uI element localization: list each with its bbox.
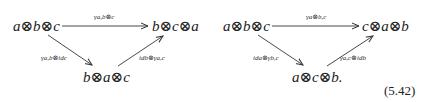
right-top-arrow-label: γa⊗b,c [306, 14, 326, 21]
equation-number: (5.42) [384, 84, 415, 97]
arrows-layer [0, 0, 432, 102]
left-right-arrow-label: idb⊗γa,c [139, 55, 165, 62]
right-middle-node: a⊗c⊗b. [292, 70, 343, 85]
left-target-node: b⊗c⊗a [152, 19, 199, 34]
left-middle-node: b⊗a⊗c [83, 70, 130, 85]
right-right-arrow-label: γa,c⊗idb [340, 55, 366, 62]
right-left-arrow-label: ida⊗γb,c [253, 55, 279, 62]
right-source-node: a⊗b⊗c [223, 19, 270, 34]
left-source-node: a⊗b⊗c [13, 19, 60, 34]
right-target-node: c⊗a⊗b [362, 19, 409, 34]
left-top-arrow-label: γa,b⊗c [94, 14, 114, 21]
left-left-arrow-label: γa,b⊗idc [41, 55, 67, 62]
